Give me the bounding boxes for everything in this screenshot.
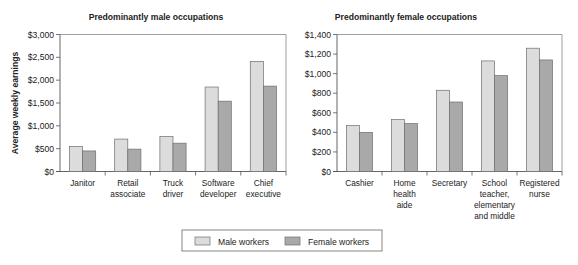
x-category-label: executive — [246, 189, 281, 199]
bar-female — [405, 124, 418, 172]
chart-canvas: Predominantly male occupations$0$500$1,0… — [0, 0, 578, 265]
bar-male — [115, 139, 128, 171]
male-occupations-chart: Predominantly male occupations$0$500$1,0… — [28, 12, 286, 199]
legend-swatch-female — [285, 237, 300, 245]
bar-male — [250, 61, 263, 171]
legend-label-male: Male workers — [218, 237, 269, 247]
chart-title: Predominantly female occupations — [335, 12, 478, 22]
bar-female — [83, 151, 96, 172]
bar-male — [346, 126, 359, 172]
y-tick-label: $200 — [312, 147, 331, 157]
bar-female — [128, 149, 141, 171]
bar-female — [495, 76, 508, 172]
x-category-label: and middle — [474, 211, 515, 221]
y-tick-label: $0 — [321, 167, 331, 177]
x-category-label: developer — [200, 189, 237, 199]
legend: Male workers Female workers — [182, 230, 382, 251]
x-category-label: nurse — [529, 189, 550, 199]
bar-female — [540, 60, 553, 172]
chart-figure: Predominantly male occupations$0$500$1,0… — [0, 0, 578, 265]
y-tick-label: $1,400 — [305, 30, 332, 40]
y-axis-label: Average weekly earnings — [10, 52, 20, 155]
y-tick-label: $0 — [44, 167, 54, 177]
x-category-label: teacher, — [480, 189, 510, 199]
x-category-label: Janitor — [70, 178, 95, 188]
x-category-label: Software — [202, 178, 235, 188]
x-category-label: associate — [110, 189, 145, 199]
x-category-label: health — [393, 189, 416, 199]
bar-male — [481, 61, 494, 172]
x-category-label: School — [482, 178, 508, 188]
bar-male — [69, 146, 82, 171]
x-category-label: Retail — [117, 178, 138, 188]
bar-male — [526, 48, 539, 171]
bar-male — [160, 136, 173, 171]
female-occupations-chart: Predominantly female occupations$0$200$4… — [305, 12, 562, 221]
chart-title: Predominantly male occupations — [89, 12, 224, 22]
x-category-label: Cashier — [345, 178, 374, 188]
bar-female — [173, 143, 186, 171]
bar-female — [450, 102, 463, 171]
y-tick-label: $400 — [312, 127, 331, 137]
y-tick-label: $1,000 — [28, 121, 55, 131]
bar-male — [391, 120, 404, 172]
y-tick-label: $2,000 — [28, 75, 55, 85]
y-tick-label: $500 — [35, 144, 54, 154]
x-category-label: elementary — [474, 200, 516, 210]
x-category-label: Home — [393, 178, 416, 188]
y-tick-label: $800 — [312, 88, 331, 98]
x-category-label: Secretary — [432, 178, 468, 188]
x-category-label: Registered — [519, 178, 560, 188]
y-tick-label: $2,500 — [28, 52, 55, 62]
y-tick-label: $1,000 — [305, 69, 332, 79]
bar-female — [360, 132, 373, 171]
x-category-label: aide — [397, 200, 413, 210]
legend-label-female: Female workers — [308, 237, 369, 247]
bar-male — [205, 87, 218, 171]
bar-female — [263, 86, 276, 171]
y-tick-label: $1,200 — [305, 49, 332, 59]
x-category-label: Chief — [254, 178, 274, 188]
y-tick-label: $600 — [312, 108, 331, 118]
bar-female — [218, 101, 231, 171]
x-category-label: driver — [163, 189, 184, 199]
x-category-label: Truck — [163, 178, 184, 188]
bar-male — [436, 90, 449, 171]
y-tick-label: $3,000 — [28, 30, 55, 40]
y-tick-label: $1,500 — [28, 98, 55, 108]
legend-swatch-male — [195, 237, 210, 245]
